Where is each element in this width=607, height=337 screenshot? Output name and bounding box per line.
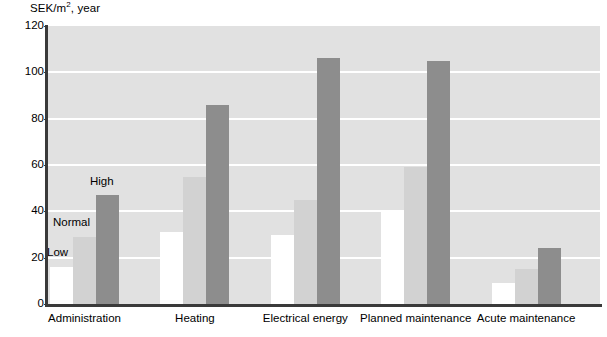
bar-administration-low[interactable] [50,267,73,304]
x-tick-label-planned-maintenance: Planned maintenance [360,313,471,325]
series-annotation-low: Low [48,247,68,259]
y-axis-tick-labels: 020406080100120 [0,26,44,304]
x-axis-category-labels: AdministrationHeatingElectrical energyPl… [0,308,607,336]
bar-planned-maintenance-high[interactable] [427,61,450,304]
series-annotation-normal: Normal [53,217,90,229]
series-annotation-high: High [90,176,114,188]
bar-administration-normal[interactable] [73,237,96,304]
bar-planned-maintenance-low[interactable] [381,211,404,304]
bar-electrical-energy-high[interactable] [317,58,340,304]
bar-electrical-energy-normal[interactable] [294,200,317,304]
bar-chart: SEK/m2, year 020406080100120 LowNormalHi… [0,0,607,337]
bar-electrical-energy-low[interactable] [271,235,294,305]
bar-acute-maintenance-low[interactable] [492,283,515,304]
bar-heating-low[interactable] [160,232,183,304]
x-tick-label-acute-maintenance: Acute maintenance [477,313,575,325]
x-tick-label-heating: Heating [175,313,215,325]
x-tick-label-administration: Administration [48,313,121,325]
bar-administration-high[interactable] [96,195,119,304]
bar-acute-maintenance-high[interactable] [538,248,561,304]
y-tick-label: 80 [2,113,44,125]
y-tick-label: 100 [2,67,44,79]
bar-heating-high[interactable] [206,105,229,304]
y-axis-title: SEK/m2, year [30,2,100,14]
y-tick-label: 20 [2,252,44,264]
y-axis-title-suffix: , year [71,2,100,14]
bar-acute-maintenance-normal[interactable] [515,269,538,304]
y-axis-title-prefix: SEK/m [30,2,66,14]
bar-planned-maintenance-normal[interactable] [404,167,427,304]
x-axis-line [45,304,602,307]
y-tick-label: 120 [2,20,44,32]
x-tick-label-electrical-energy: Electrical energy [263,313,348,325]
y-tick-label: 40 [2,206,44,218]
y-tick-label: 60 [2,159,44,171]
bar-heating-normal[interactable] [183,177,206,304]
plot-area: LowNormalHigh [48,26,600,304]
